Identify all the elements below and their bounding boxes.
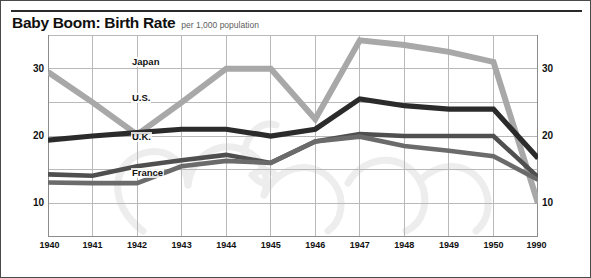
series-label-japan: Japan	[131, 57, 160, 67]
x-axis-tick-1940: 1940	[40, 241, 60, 250]
series-label-uk: U.K.	[131, 132, 152, 142]
x-axis-tick-1990: 1990	[526, 241, 546, 250]
x-axis-tick-1947: 1947	[350, 241, 370, 250]
x-axis-tick-1950: 1950	[483, 241, 503, 250]
plot-area	[48, 35, 538, 237]
chart-figure: Baby Boom: Birth Rate per 1,000 populati…	[0, 0, 591, 278]
chart-svg	[48, 35, 538, 237]
y-axis-tick-right-30: 30	[542, 64, 553, 74]
page-title: Baby Boom: Birth Rate	[12, 14, 175, 32]
x-axis-tick-1949: 1949	[439, 241, 459, 250]
series-label-france: France	[131, 168, 164, 178]
x-axis-tick-1944: 1944	[216, 241, 236, 250]
x-axis-tick-1943: 1943	[172, 241, 192, 250]
x-axis-tick-1942: 1942	[127, 241, 147, 250]
x-axis-tick-1946: 1946	[305, 241, 325, 250]
x-axis-tick-1941: 1941	[83, 241, 103, 250]
x-axis-tick-1948: 1948	[394, 241, 414, 250]
title-block: Baby Boom: Birth Rate per 1,000 populati…	[12, 14, 259, 33]
chart-subtitle: per 1,000 population	[181, 20, 259, 30]
y-axis-tick-left-10: 10	[33, 198, 44, 208]
y-axis-tick-right-20: 20	[542, 131, 553, 141]
y-axis-tick-right-10: 10	[542, 198, 553, 208]
y-axis-labels-right: 302010	[542, 35, 572, 237]
y-axis-tick-left-20: 20	[33, 131, 44, 141]
series-line-us	[48, 99, 538, 158]
title-divider-rule	[11, 10, 582, 12]
series-label-us: U.S.	[131, 93, 151, 103]
x-axis-tick-1945: 1945	[261, 241, 281, 250]
x-axis-labels: 1940194119421943194419451946194719481949…	[48, 241, 538, 257]
y-axis-tick-left-30: 30	[33, 64, 44, 74]
y-axis-labels-left: 302010	[21, 35, 44, 237]
background-watermark	[118, 124, 489, 231]
